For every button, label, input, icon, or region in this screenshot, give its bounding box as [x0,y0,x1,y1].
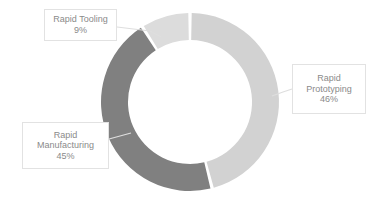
callout-rapid-prototyping-percent: 46% [320,94,338,105]
callout-rapid-prototyping-category-line1: Rapid [317,73,341,84]
callout-rapid-manufacturing[interactable]: Rapid Manufacturing 45% [22,122,109,169]
callout-rapid-prototyping[interactable]: Rapid Prototyping 46% [292,64,366,114]
callout-rapid-tooling-category: Rapid Tooling [53,14,107,25]
donut-slice-rapid-manufacturing[interactable] [101,28,210,191]
callout-rapid-tooling[interactable]: Rapid Tooling 9% [44,9,117,41]
callout-rapid-manufacturing-category-line2: Manufacturing [37,140,94,151]
callout-rapid-manufacturing-percent: 45% [56,151,74,162]
callout-rapid-manufacturing-category-line1: Rapid [54,130,78,141]
callout-rapid-prototyping-category-line2: Prototyping [306,84,352,95]
donut-chart: Rapid Tooling 9% Rapid Prototyping 46% R… [0,0,369,201]
callout-rapid-tooling-percent: 9% [74,25,87,36]
donut-slice-rapid-prototyping[interactable] [191,13,279,188]
